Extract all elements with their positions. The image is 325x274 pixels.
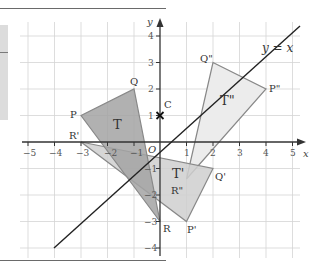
svg-text:−3: −3: [144, 217, 158, 227]
vertex-P-double-prime-label: P": [269, 83, 280, 94]
svg-text:1: 1: [184, 148, 190, 158]
y-axis-label: y: [146, 16, 153, 27]
vertex-P-prime-label: P': [187, 224, 196, 235]
origin-label: O: [148, 144, 156, 155]
svg-text:1: 1: [148, 111, 154, 121]
x-axis-arrow-icon: [297, 139, 306, 146]
line-equation-label: y = x: [261, 41, 293, 55]
y-axis-arrow-icon: [157, 18, 164, 27]
svg-text:−5: −5: [23, 148, 37, 158]
vertex-Q-prime-label: Q': [215, 171, 226, 182]
x-axis-label: x: [303, 148, 309, 159]
triangle-T-label: T: [113, 117, 122, 132]
svg-text:−4: −4: [144, 243, 158, 253]
svg-text:2: 2: [210, 148, 216, 158]
vertex-R-label: R: [163, 223, 171, 234]
vertex-R-prime-label: R': [69, 130, 79, 141]
coordinate-plane: −5 −4 −3 −2 −1 1 2 3 4 5 4 3 2 1 −1 −2 −…: [0, 0, 325, 274]
point-C-label: C: [164, 99, 172, 110]
svg-text:−4: −4: [49, 148, 63, 158]
svg-text:−1: −1: [130, 148, 143, 158]
svg-text:−2: −2: [104, 148, 117, 158]
svg-text:−3: −3: [76, 148, 90, 158]
svg-text:3: 3: [237, 148, 243, 158]
vertex-P-label: P: [70, 109, 77, 120]
svg-text:3: 3: [148, 58, 154, 68]
vertex-Q-label: Q: [130, 76, 138, 87]
vertex-Q-double-prime-label: Q": [200, 53, 213, 64]
triangle-T-prime-label: T': [172, 166, 184, 181]
triangle-T-double-prime: [187, 63, 267, 180]
svg-text:5: 5: [290, 148, 296, 158]
vertex-R-double-prime-label: R": [171, 185, 183, 196]
svg-text:2: 2: [148, 84, 154, 94]
svg-text:4: 4: [263, 148, 269, 158]
svg-text:−2: −2: [144, 190, 157, 200]
svg-text:4: 4: [148, 31, 154, 41]
triangle-T-double-prime-label: T": [220, 93, 235, 108]
svg-text:−1: −1: [144, 164, 157, 174]
